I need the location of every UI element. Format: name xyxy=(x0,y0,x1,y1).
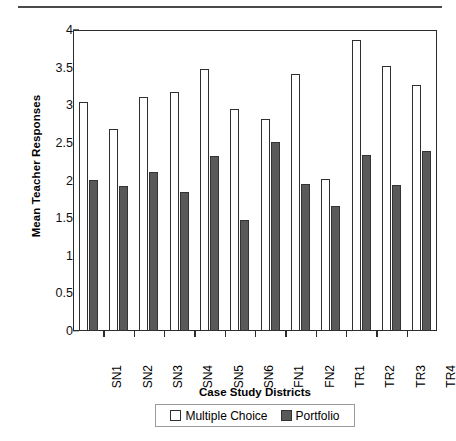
bar-group xyxy=(261,30,280,331)
bars-layer xyxy=(73,30,437,331)
bar-group xyxy=(382,30,401,331)
x-tick-mark xyxy=(285,331,286,337)
bar-sn6-multiple-choice xyxy=(230,109,239,331)
x-axis-title: Case Study Districts xyxy=(73,386,437,398)
bar-group xyxy=(109,30,128,331)
bar-fn1-multiple-choice xyxy=(261,119,270,331)
bar-sn3-multiple-choice xyxy=(139,97,148,331)
x-tick-mark xyxy=(376,331,377,337)
bar-tr2-multiple-choice xyxy=(352,40,361,331)
open-square-swatch-icon xyxy=(170,410,181,421)
bar-group xyxy=(200,30,219,331)
y-axis-tick-labels: 00.511.522.533.54 xyxy=(0,30,73,331)
legend-label-multiple-choice: Multiple Choice xyxy=(185,409,267,423)
x-axis-ticks xyxy=(73,331,437,338)
y-tick-label: 0.5 xyxy=(13,286,73,300)
bar-tr3-multiple-choice xyxy=(382,66,391,331)
y-tick-label: 2 xyxy=(13,174,73,188)
bar-tr2-portfolio xyxy=(362,155,371,331)
x-axis-tick-labels: SN1SN2SN3SN4SN5SN6FN1FN2TR1TR2TR3TR4 xyxy=(73,338,437,384)
bar-sn6-portfolio xyxy=(240,220,249,331)
bar-sn1-portfolio xyxy=(89,180,98,331)
x-tick-mark xyxy=(194,331,195,337)
x-tick-mark xyxy=(134,331,135,337)
bar-tr1-portfolio xyxy=(331,206,340,331)
bar-tr4-multiple-choice xyxy=(412,85,421,331)
bar-tr3-portfolio xyxy=(392,185,401,331)
bar-group xyxy=(139,30,158,331)
x-tick-mark xyxy=(407,331,408,337)
bar-tr4-portfolio xyxy=(422,151,431,331)
y-tick-label: 1 xyxy=(13,249,73,263)
bar-group xyxy=(321,30,340,331)
bar-group xyxy=(230,30,249,331)
y-tick-label: 1.5 xyxy=(13,211,73,225)
x-tick-mark xyxy=(346,331,347,337)
bar-sn3-portfolio xyxy=(149,172,158,331)
bar-group xyxy=(412,30,431,331)
bar-group xyxy=(79,30,98,331)
bar-group xyxy=(170,30,189,331)
legend-item-multiple-choice: Multiple Choice xyxy=(170,409,267,423)
bar-fn1-portfolio xyxy=(271,142,280,331)
legend-label-portfolio: Portfolio xyxy=(296,409,340,423)
x-tick-mark xyxy=(103,331,104,337)
x-tick-mark xyxy=(164,331,165,337)
y-tick-label: 2.5 xyxy=(13,136,73,150)
bar-sn5-multiple-choice xyxy=(200,69,209,331)
bar-sn2-multiple-choice xyxy=(109,129,118,331)
x-tick-mark xyxy=(255,331,256,337)
x-tick-label-tr4: TR4 xyxy=(444,365,456,411)
filled-square-swatch-icon xyxy=(281,410,292,421)
bar-fn2-multiple-choice xyxy=(291,74,300,331)
chart-legend: Multiple Choice Portfolio xyxy=(155,404,355,427)
x-tick-mark xyxy=(316,331,317,337)
bar-sn5-portfolio xyxy=(210,156,219,331)
x-tick-mark xyxy=(225,331,226,337)
bar-sn2-portfolio xyxy=(119,186,128,331)
bar-tr1-multiple-choice xyxy=(321,179,330,331)
legend-item-portfolio: Portfolio xyxy=(281,409,340,423)
y-tick-label: 3.5 xyxy=(13,61,73,75)
bar-group xyxy=(291,30,310,331)
y-tick-label: 3 xyxy=(13,98,73,112)
bar-fn2-portfolio xyxy=(301,184,310,331)
bar-sn4-multiple-choice xyxy=(170,92,179,331)
bar-sn4-portfolio xyxy=(180,192,189,331)
top-horizontal-rule xyxy=(18,6,442,8)
y-tick-label: 0 xyxy=(13,324,73,338)
bar-chart-figure: Mean Teacher Responses 00.511.522.533.54… xyxy=(0,0,456,441)
bar-group xyxy=(352,30,371,331)
bar-sn1-multiple-choice xyxy=(79,102,88,332)
y-tick-label: 4 xyxy=(13,23,73,37)
